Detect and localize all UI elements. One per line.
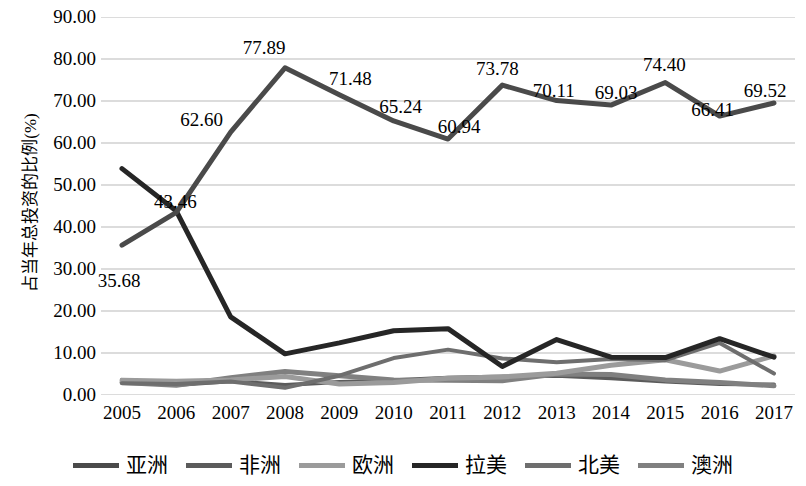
legend-item[interactable]: 拉美 (412, 455, 507, 476)
x-axis-tick-label: 2009 (311, 403, 367, 422)
legend-item[interactable]: 亚洲 (73, 455, 168, 476)
plot-svg (101, 17, 795, 395)
legend-swatch-icon (73, 463, 119, 468)
legend-item[interactable]: 非洲 (186, 455, 281, 476)
y-axis-tick-labels: 90.0080.0070.0060.0050.0040.0030.0020.00… (22, 0, 96, 420)
x-axis-tick-label: 2014 (583, 403, 639, 422)
y-axis-tick-label: 0.00 (22, 385, 96, 404)
plot-area (101, 17, 795, 395)
y-axis-tick-label: 90.00 (22, 7, 96, 26)
legend-swatch-icon (299, 463, 345, 468)
legend-item[interactable]: 澳洲 (638, 455, 733, 476)
series-lines (122, 68, 774, 388)
legend-swatch-icon (638, 463, 684, 468)
y-axis-tick-label: 30.00 (22, 259, 96, 278)
legend-label: 拉美 (465, 455, 507, 476)
legend-swatch-icon (412, 463, 458, 468)
x-axis-tick-labels: 2005200620072008200920102011201220132014… (101, 403, 795, 429)
legend-label: 欧洲 (352, 455, 394, 476)
series-line (122, 169, 774, 367)
gridlines (101, 17, 795, 395)
y-axis-tick-label: 70.00 (22, 91, 96, 110)
x-axis-tick-label: 2016 (692, 403, 748, 422)
y-axis-tick-label: 50.00 (22, 175, 96, 194)
x-axis-tick-label: 2010 (366, 403, 422, 422)
line-chart: 占当年总投资的比例(%) 90.0080.0070.0060.0050.0040… (0, 0, 806, 486)
legend-label: 亚洲 (126, 455, 168, 476)
legend-swatch-icon (186, 463, 232, 468)
y-axis-tick-label: 10.00 (22, 343, 96, 362)
x-axis-tick-label: 2005 (94, 403, 150, 422)
x-axis-tick-label: 2013 (529, 403, 585, 422)
series-line (122, 68, 774, 245)
y-axis-tick-label: 40.00 (22, 217, 96, 236)
x-axis-tick-label: 2006 (148, 403, 204, 422)
y-axis-tick-label: 80.00 (22, 49, 96, 68)
x-axis-tick-label: 2007 (203, 403, 259, 422)
legend-swatch-icon (525, 463, 571, 468)
x-axis-tick-label: 2011 (420, 403, 476, 422)
x-axis-tick-label: 2015 (637, 403, 693, 422)
legend-label: 北美 (578, 455, 620, 476)
legend-item[interactable]: 北美 (525, 455, 620, 476)
legend: 亚洲非洲欧洲拉美北美澳洲 (0, 448, 806, 482)
x-axis-tick-label: 2008 (257, 403, 313, 422)
legend-item[interactable]: 欧洲 (299, 455, 394, 476)
x-axis-tick-label: 2012 (474, 403, 530, 422)
legend-label: 非洲 (239, 455, 281, 476)
legend-label: 澳洲 (691, 455, 733, 476)
x-axis-tick-label: 2017 (746, 403, 802, 422)
y-axis-tick-label: 20.00 (22, 301, 96, 320)
y-axis-tick-label: 60.00 (22, 133, 96, 152)
